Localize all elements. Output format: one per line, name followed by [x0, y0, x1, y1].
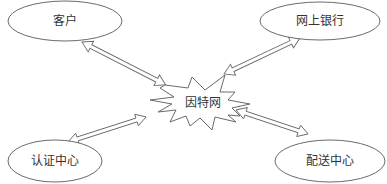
node-label: 客户	[53, 13, 77, 28]
node-label: 网上银行	[296, 14, 344, 28]
node-online-bank: 网上银行	[260, 2, 380, 40]
arrow-distribution-internet	[234, 104, 310, 139]
arrow-bank-internet	[221, 33, 302, 80]
node-customer: 客户	[8, 1, 122, 41]
center-label: 因特网	[185, 95, 221, 110]
ecommerce-diagram: 客户 网上银行 认证中心 配送中心 因特网	[0, 0, 387, 184]
node-label: 认证中心	[31, 153, 79, 168]
node-distribution-center: 配送中心	[275, 140, 385, 182]
arrow-customer-internet	[79, 37, 168, 91]
node-label: 配送中心	[306, 153, 354, 168]
node-certification-center: 认证中心	[8, 140, 102, 182]
